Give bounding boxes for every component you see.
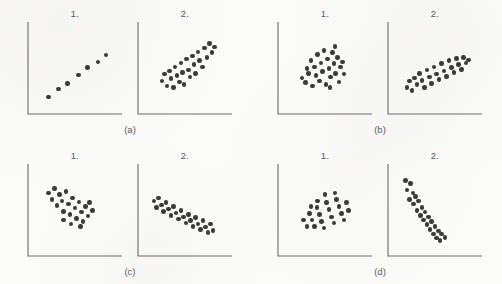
data-point: [83, 204, 88, 209]
data-point: [191, 224, 196, 229]
data-point: [78, 224, 83, 229]
axis-line-c2: [138, 164, 232, 256]
data-point: [180, 70, 185, 75]
data-point: [171, 85, 176, 90]
group-caption-d: (d): [277, 266, 483, 277]
data-point: [175, 73, 180, 78]
data-point: [166, 207, 171, 212]
data-point: [161, 209, 166, 214]
data-point: [312, 224, 317, 229]
data-point: [312, 65, 317, 70]
plot-area-c1: [27, 164, 123, 257]
panel-number-label-c1: 1.: [27, 150, 123, 161]
data-point: [50, 197, 55, 202]
scatter-panel-c1: 1.: [27, 150, 123, 257]
data-point: [443, 235, 448, 240]
data-point: [162, 72, 167, 77]
data-point: [314, 73, 319, 78]
data-point: [182, 82, 187, 87]
data-point: [338, 65, 343, 70]
plot-area-a2: [137, 22, 233, 115]
data-point: [413, 194, 418, 199]
data-point: [335, 55, 340, 60]
data-point: [57, 192, 62, 197]
data-point: [427, 75, 432, 80]
data-point: [70, 196, 75, 201]
data-point: [320, 69, 325, 74]
axes-a2: [137, 22, 233, 115]
data-point: [405, 85, 410, 90]
data-point: [339, 211, 344, 216]
data-point: [346, 208, 351, 213]
data-point: [159, 203, 164, 208]
data-point: [306, 71, 311, 76]
data-point: [309, 204, 314, 209]
data-point: [211, 228, 216, 233]
data-point: [324, 200, 329, 205]
data-point: [307, 211, 312, 216]
plot-area-d1: [277, 164, 373, 257]
data-point: [208, 222, 213, 227]
data-point: [415, 82, 420, 87]
data-point: [202, 46, 207, 51]
data-point: [330, 50, 335, 55]
scatter-panel-b2: 2.: [387, 8, 483, 115]
data-point: [429, 81, 434, 86]
data-point: [412, 76, 417, 81]
data-point: [329, 215, 334, 220]
data-point: [68, 212, 73, 217]
axis-line-a1: [28, 22, 122, 114]
data-point: [193, 71, 198, 76]
plot-area-c2: [137, 164, 233, 257]
group-caption-b: (b): [277, 124, 483, 135]
panel-number-label-a2: 2.: [137, 8, 233, 19]
data-point: [192, 62, 197, 67]
panel-number-label-b2: 2.: [387, 8, 483, 19]
data-point: [177, 80, 182, 85]
scatter-panel-b1: 1.: [277, 8, 373, 115]
data-point: [90, 208, 95, 213]
data-point: [64, 189, 69, 194]
axis-line-d2: [388, 164, 482, 256]
data-point: [433, 224, 438, 229]
data-point: [447, 58, 452, 63]
panel-number-label-d1: 1.: [277, 150, 373, 161]
data-point: [186, 212, 191, 217]
panel-number-label-c2: 2.: [137, 150, 233, 161]
scatter-panel-a1: 1.: [27, 8, 123, 115]
axes-a1: [27, 22, 123, 115]
data-point: [319, 219, 324, 224]
data-point: [207, 41, 212, 46]
figure-root: 1.2.1.2.1.2.1.2.(a)(b)(c)(d): [0, 0, 502, 284]
data-point: [206, 230, 211, 235]
data-point: [415, 208, 420, 213]
data-point: [315, 205, 320, 210]
data-point: [454, 56, 459, 61]
data-point: [203, 225, 208, 230]
axis-line-a2: [138, 22, 232, 114]
data-point: [190, 54, 195, 59]
data-point: [422, 85, 427, 90]
data-point: [52, 186, 57, 191]
data-point: [420, 78, 425, 83]
data-point: [171, 204, 176, 209]
scatter-panel-c2: 2.: [137, 150, 233, 257]
plot-area-b1: [277, 22, 373, 115]
data-point: [325, 57, 330, 62]
data-point: [154, 205, 159, 210]
data-point: [340, 60, 345, 65]
data-point: [85, 65, 90, 70]
plot-area-b2: [387, 22, 483, 115]
axes-c1: [27, 164, 123, 257]
data-point: [315, 52, 320, 57]
data-point: [186, 68, 191, 73]
data-point: [444, 74, 449, 79]
data-point: [466, 58, 471, 63]
data-point: [303, 80, 308, 85]
data-point: [65, 81, 70, 86]
axes-d1: [277, 164, 373, 257]
data-point: [439, 61, 444, 66]
data-point: [193, 215, 198, 220]
data-point: [61, 218, 66, 223]
data-point: [438, 238, 443, 243]
